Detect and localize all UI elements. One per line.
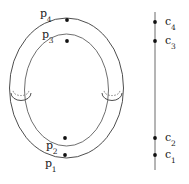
axis-point-label-c2: c2 xyxy=(165,132,176,146)
surface-point-dot-p3 xyxy=(65,39,69,43)
axis-point-dot-c4 xyxy=(153,20,157,24)
inner-oval xyxy=(25,34,109,146)
axis-point-dot-c3 xyxy=(153,39,157,43)
axis-point-dot-c1 xyxy=(153,153,157,157)
surface-point-dot-p1 xyxy=(63,153,67,157)
surface-point-markers xyxy=(63,18,69,157)
surface-point-label-p2: p2 xyxy=(46,140,58,154)
surface-point-dot-p2 xyxy=(63,136,67,140)
surface-point-dot-p4 xyxy=(65,18,69,22)
figure-canvas: p4p3p2p1c4c3c2c1 xyxy=(0,0,189,184)
left-handle-icon xyxy=(11,91,31,101)
surface-point-label-p1: p1 xyxy=(45,158,57,172)
axis-point-label-c4: c4 xyxy=(165,16,176,30)
surface-point-label-p3: p3 xyxy=(42,29,54,43)
diagram-svg xyxy=(0,0,189,184)
surface-point-label-p4: p4 xyxy=(40,8,52,22)
axis-point-dot-c2 xyxy=(153,136,157,140)
axis-point-label-c3: c3 xyxy=(165,35,176,49)
axis-point-label-c1: c1 xyxy=(165,149,176,163)
right-handle-icon xyxy=(102,91,122,101)
